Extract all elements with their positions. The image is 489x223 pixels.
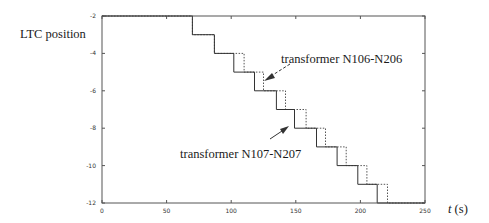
- axis-ticks: [102, 16, 425, 203]
- data-series: [102, 16, 425, 203]
- y-tick-label: -8: [90, 124, 96, 131]
- x-tick-label: 200: [355, 207, 367, 214]
- plot-frame: [102, 16, 425, 203]
- annotation-n107-n207: transformer N107-N207: [180, 147, 301, 162]
- y-axis-title: LTC position: [20, 27, 86, 42]
- annotation-n106-n206: transformer N106-N206: [281, 52, 402, 67]
- x-axis-unit: (s): [455, 202, 468, 216]
- y-tick-label: -2: [90, 12, 96, 19]
- x-axis-variable: t: [448, 202, 451, 216]
- y-tick-label: -4: [90, 49, 96, 56]
- x-axis-title: t (s): [448, 202, 468, 217]
- series-transformer-n106-n206: [102, 16, 425, 203]
- y-tick-label: -10: [86, 162, 96, 169]
- x-tick-label: 0: [100, 207, 104, 214]
- y-tick-label: -12: [86, 199, 96, 206]
- y-tick-label: -6: [90, 87, 96, 94]
- arrow-n107-solid: [270, 126, 289, 139]
- x-tick-label: 100: [225, 207, 237, 214]
- x-tick-label: 150: [290, 207, 302, 214]
- axis-tick-labels: 050100150200250-2-4-6-8-10-12: [86, 12, 431, 214]
- x-tick-label: 50: [163, 207, 171, 214]
- x-tick-label: 250: [419, 207, 431, 214]
- series-transformer-n107-n207: [102, 16, 425, 203]
